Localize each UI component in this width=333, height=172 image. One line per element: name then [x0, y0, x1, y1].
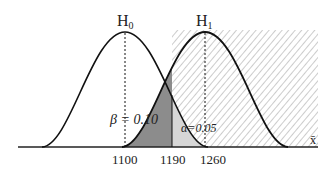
- hypothesis-test-diagram: H0 H1 β = 0.10 α=0.05 1100 1190 1260 x̄: [0, 0, 333, 172]
- tick-1190: 1190: [160, 152, 186, 167]
- h1-label: H1: [196, 12, 213, 31]
- alpha-label: α=0.05: [181, 121, 216, 135]
- tick-1260: 1260: [200, 152, 226, 167]
- h0-label: H0: [117, 12, 134, 31]
- tick-1100: 1100: [112, 152, 138, 167]
- x-axis-label: x̄: [310, 133, 316, 147]
- beta-label: β = 0.10: [109, 112, 158, 127]
